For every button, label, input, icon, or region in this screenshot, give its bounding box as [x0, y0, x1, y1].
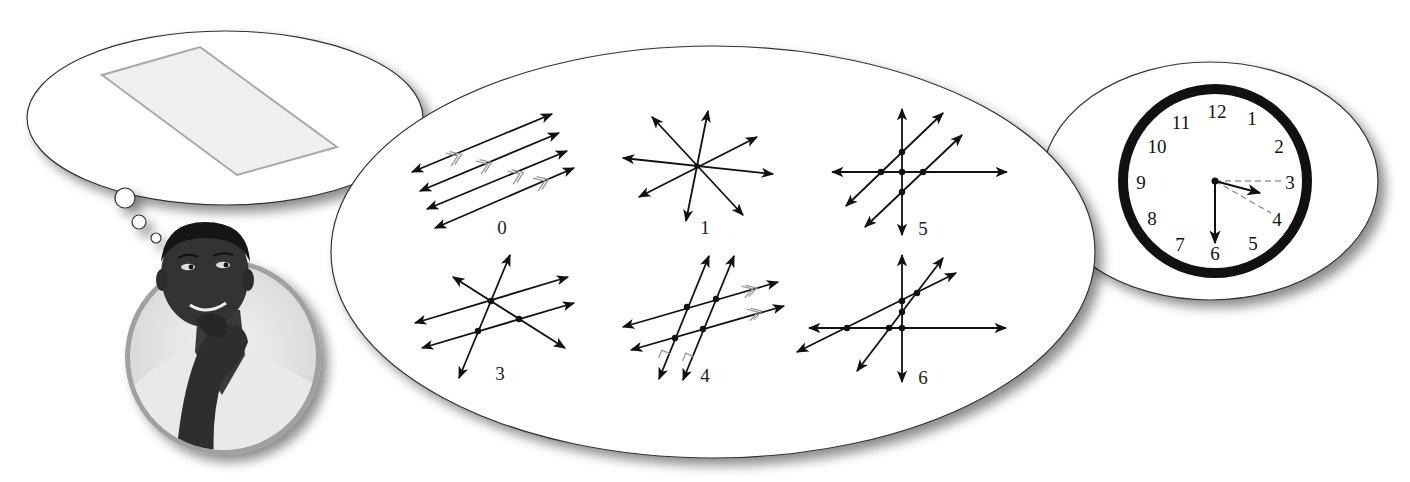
- diagram-label-1: 1: [700, 217, 710, 238]
- clock-number-5: 5: [1248, 233, 1258, 254]
- diagram-label-0: 0: [497, 217, 507, 238]
- clock-number-7: 7: [1175, 234, 1185, 255]
- diagrams-bubble: [331, 46, 1095, 458]
- diagram-label-3: 3: [495, 363, 505, 384]
- clock-number-9: 9: [1136, 172, 1146, 193]
- diagram-label-4: 4: [700, 365, 710, 386]
- clock-number-8: 8: [1147, 208, 1157, 229]
- diagram-label-5: 5: [918, 218, 928, 239]
- clock-number-4: 4: [1272, 209, 1282, 230]
- clock-number-6: 6: [1210, 243, 1220, 264]
- illustration: 0 1 5 3 4 6 12 1 2 3 4 5 6 7 8 9 10 11: [0, 0, 1410, 482]
- clock-number-10: 10: [1148, 136, 1167, 157]
- clock-number-12: 12: [1208, 101, 1227, 122]
- clock-number-1: 1: [1247, 108, 1257, 129]
- diagram-label-6: 6: [918, 367, 928, 388]
- person-avatar: [120, 222, 330, 470]
- clock-number-11: 11: [1172, 112, 1190, 133]
- clock-number-2: 2: [1274, 136, 1284, 157]
- clock-number-3: 3: [1285, 172, 1295, 193]
